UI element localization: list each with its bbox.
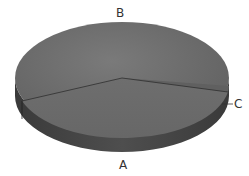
label-c: C (234, 98, 242, 110)
pie-chart-svg (0, 0, 249, 176)
label-b: B (116, 7, 124, 19)
pie-chart: B A C (0, 0, 249, 176)
label-a: A (119, 159, 127, 171)
